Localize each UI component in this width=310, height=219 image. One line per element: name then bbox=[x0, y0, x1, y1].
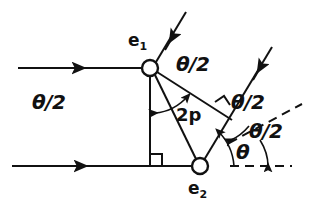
node-label-e1-base: e bbox=[128, 30, 140, 50]
figure-canvas: e1 e2 θ/2 θ/2 θ/2 θ/2 θ 2p bbox=[0, 0, 310, 219]
right-angle-marker-baseline bbox=[150, 154, 162, 166]
node-label-e2-subscript: 2 bbox=[200, 188, 208, 201]
angle-label-theta-half-left: θ/2 bbox=[32, 92, 65, 112]
angle-label-theta-half-low-right: θ/2 bbox=[249, 121, 282, 141]
angle-label-theta-half-top-right: θ/2 bbox=[176, 54, 209, 74]
node-label-e1-subscript: 1 bbox=[140, 40, 148, 53]
node-label-e2: e2 bbox=[188, 180, 207, 200]
angle-arc-e2-theta-half bbox=[260, 140, 268, 166]
node-e2 bbox=[192, 158, 208, 174]
node-e1 bbox=[142, 60, 158, 76]
right-angle-marker-crossing bbox=[215, 96, 230, 105]
outgoing-ray-e2-up-arrowhead bbox=[253, 68, 260, 80]
angle-arc-e2-theta bbox=[218, 131, 234, 166]
node-label-e2-base: e bbox=[188, 178, 200, 198]
angle-label-theta: θ bbox=[236, 142, 249, 162]
angle-label-theta-half-mid-right: θ/2 bbox=[231, 92, 264, 112]
length-label-2p: 2p bbox=[176, 106, 201, 124]
node-label-e1: e1 bbox=[128, 32, 147, 52]
